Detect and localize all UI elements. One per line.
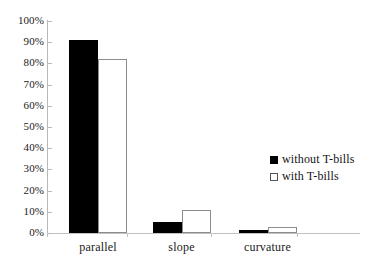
bar-chart: 0%10%20%30%40%50%60%70%80%90%100% parall… <box>0 0 370 272</box>
y-axis-tick <box>47 191 52 192</box>
y-axis-tick <box>47 212 52 213</box>
y-axis-tick <box>47 21 52 22</box>
x-axis-line <box>47 233 360 234</box>
y-axis-tick <box>47 42 52 43</box>
x-axis-tick-label: curvature <box>218 240 318 254</box>
legend: without T-bills with T-bills <box>270 152 355 186</box>
filled-square-marker-icon <box>270 156 278 164</box>
legend-label: with T-bills <box>282 170 339 183</box>
legend-item-with-t-bills: with T-bills <box>270 169 355 184</box>
y-axis-tick-label: 90% <box>0 36 44 47</box>
x-axis-tick-label: slope <box>132 240 232 254</box>
y-axis-tick-label: 30% <box>0 163 44 174</box>
y-axis-tick <box>47 127 52 128</box>
hollow-square-marker-icon <box>270 173 278 181</box>
plot-area: 0%10%20%30%40%50%60%70%80%90%100% parall… <box>0 0 370 272</box>
y-axis-tick-label: 10% <box>0 206 44 217</box>
y-axis-tick <box>47 169 52 170</box>
y-axis-tick <box>47 148 52 149</box>
y-axis-tick-label: 80% <box>0 57 44 68</box>
y-axis-tick-label: 70% <box>0 79 44 90</box>
y-axis-tick-label: 50% <box>0 121 44 132</box>
x-axis-tick <box>297 233 298 237</box>
bar <box>69 40 98 233</box>
y-axis-tick <box>47 63 52 64</box>
y-axis-tick-label: 100% <box>0 15 44 26</box>
x-axis-tick <box>211 233 212 237</box>
y-axis-tick-label: 60% <box>0 100 44 111</box>
y-axis-tick <box>47 106 52 107</box>
y-axis-tick-label: 40% <box>0 142 44 153</box>
y-axis-tick-label: 20% <box>0 185 44 196</box>
bar <box>98 59 127 233</box>
bar <box>239 230 268 233</box>
y-axis-tick <box>47 85 52 86</box>
legend-label: without T-bills <box>282 153 355 166</box>
bar <box>153 222 182 233</box>
y-axis-tick-label: 0% <box>0 227 44 238</box>
x-axis-tick <box>47 233 48 237</box>
x-axis-tick <box>127 233 128 237</box>
bar <box>182 210 211 233</box>
legend-item-without-t-bills: without T-bills <box>270 152 355 167</box>
bar <box>268 227 297 233</box>
